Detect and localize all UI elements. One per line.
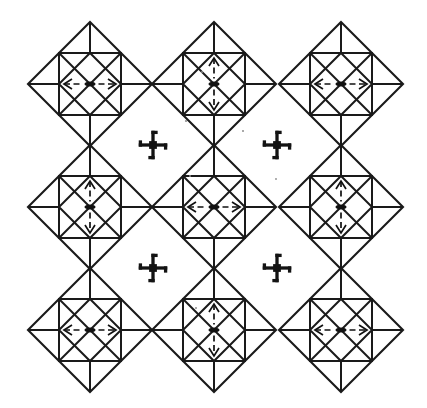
scan-speck (195, 307, 197, 309)
scan-speck (189, 175, 191, 177)
lattice-canvas (0, 0, 427, 408)
scan-speck (185, 120, 187, 122)
scan-speck (242, 130, 244, 132)
scan-speck (201, 71, 203, 73)
scan-speck (275, 178, 277, 180)
symmetry-diagram-figure (0, 0, 427, 408)
